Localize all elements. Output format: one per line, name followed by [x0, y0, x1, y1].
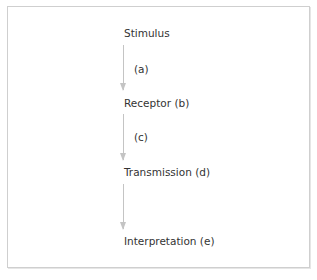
node-transmission: Transmission (d) — [124, 166, 210, 178]
arrow-down-icon — [123, 114, 124, 160]
diagram-frame — [7, 6, 310, 268]
node-interpretation: Interpretation (e) — [124, 235, 215, 247]
node-stimulus: Stimulus — [124, 27, 170, 39]
arrow-down-icon — [123, 45, 124, 90]
node-receptor: Receptor (b) — [124, 97, 189, 109]
arrow-down-icon — [123, 184, 124, 229]
edge-label-a: (a) — [134, 63, 149, 75]
edge-label-c: (c) — [134, 131, 148, 143]
